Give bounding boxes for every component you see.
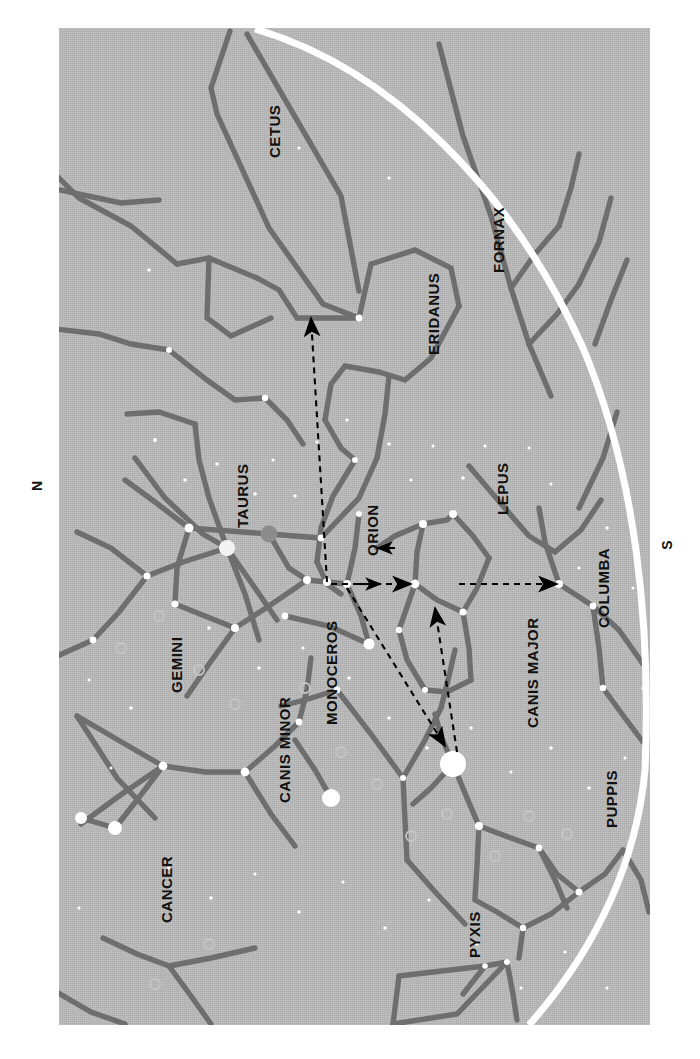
- sky-panel: CETUS FORNAX ERIDANUS TAURUS ORION LEPUS…: [59, 28, 650, 1025]
- label-eridanus: ERIDANUS: [426, 273, 441, 355]
- star-rigel: [364, 639, 375, 650]
- north-label: N: [29, 481, 45, 491]
- label-canis-minor: CANIS MINOR: [277, 697, 292, 803]
- label-taurus: TAURUS: [235, 464, 250, 528]
- label-pyxis: PYXIS: [467, 911, 482, 958]
- star-betelgeuse: [261, 526, 278, 543]
- label-orion: ORION: [365, 504, 380, 556]
- south-label: S: [659, 540, 675, 549]
- star-map-canvas: [59, 28, 650, 1025]
- constellation-lines: [59, 31, 649, 1024]
- star-sirius: [440, 751, 466, 777]
- star-castor: [75, 812, 87, 824]
- label-puppis: PUPPIS: [604, 770, 619, 828]
- chart-page: CETUS FORNAX ERIDANUS TAURUS ORION LEPUS…: [0, 0, 700, 1059]
- star-pollux: [108, 821, 122, 835]
- label-cetus: CETUS: [267, 105, 282, 158]
- pointer-arrows: [311, 318, 557, 752]
- horizon-arc-lower: [529, 770, 645, 1025]
- label-gemini: GEMINI: [169, 637, 184, 693]
- label-fornax: FORNAX: [491, 207, 506, 273]
- label-columba: COLUMBA: [596, 548, 611, 628]
- label-monoceros: MONOCEROS: [324, 620, 339, 725]
- star-aldebaran: [219, 540, 235, 556]
- label-canis-major: CANIS MAJOR: [525, 617, 540, 728]
- label-lepus: LEPUS: [495, 462, 510, 515]
- label-cancer: CANCER: [159, 856, 174, 923]
- star-procyon: [322, 789, 340, 807]
